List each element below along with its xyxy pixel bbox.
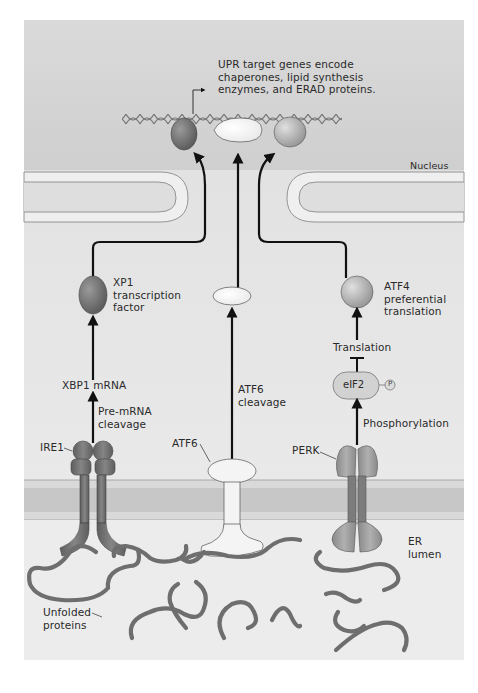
upr-target-genes-label: UPR target genes encode chaperones, lipi… (218, 58, 376, 96)
eif2-label: eIF2 (343, 379, 364, 390)
unfolded-proteins-label: Unfolded proteins (43, 606, 91, 631)
translation-label: Translation (333, 341, 391, 354)
er-lumen-label: ER lumen (408, 535, 441, 560)
atf4-factor (341, 276, 373, 308)
upr-diagram (0, 0, 478, 693)
nucleus-label: Nucleus (410, 160, 449, 173)
atf4-factor-on-dna (274, 117, 306, 147)
atf6-label: ATF6 (172, 437, 198, 450)
phosphate-label: P (388, 380, 392, 388)
ire1-label: IRE1 (40, 441, 64, 454)
atf4-label: ATF4 preferential translation (384, 280, 446, 318)
atf6-fragment (213, 287, 251, 305)
xp1-transcription-factor (79, 276, 107, 314)
xbp1-mrna-label: XBP1 mRNA (62, 379, 126, 392)
phosphorylation-label: Phosphorylation (363, 417, 449, 430)
atf6-cleavage-label: ATF6 cleavage (238, 383, 286, 408)
pre-mrna-cleavage-label: Pre-mRNA cleavage (98, 405, 152, 430)
xbp1-factor-on-dna (171, 118, 197, 150)
perk-label: PERK (292, 444, 320, 457)
xp1-transcription-factor-label: XP1 transcription factor (113, 276, 181, 314)
